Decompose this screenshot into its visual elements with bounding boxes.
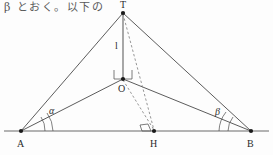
angle-arc-beta-outer (219, 112, 226, 131)
segment-O-A-line (21, 79, 123, 131)
point-label-T: T (120, 0, 126, 10)
point-H-dot (152, 129, 156, 133)
point-A-dot (19, 129, 23, 133)
point-label-O: O (118, 84, 125, 94)
segment-T-H-line (123, 14, 154, 130)
segment-O-H-line (123, 80, 154, 130)
length-label-l: l (115, 41, 118, 51)
point-label-H: H (150, 139, 157, 149)
point-T-dot (121, 11, 125, 15)
segment-T-A-line (21, 13, 123, 131)
geometry-figure: β とおく。以下の T O A H B l (0, 0, 273, 155)
angle-label-beta: β (215, 107, 220, 117)
right-angle-at-H-marker (140, 124, 151, 131)
angle-label-alpha: α (49, 106, 54, 116)
angle-arc-beta-inner (228, 117, 233, 131)
point-label-B: B (247, 139, 254, 149)
segment-T-B-line (123, 13, 251, 131)
geometry-canvas (0, 0, 273, 155)
point-O-dot (121, 77, 125, 81)
point-B-dot (249, 129, 253, 133)
point-label-A: A (17, 139, 24, 149)
